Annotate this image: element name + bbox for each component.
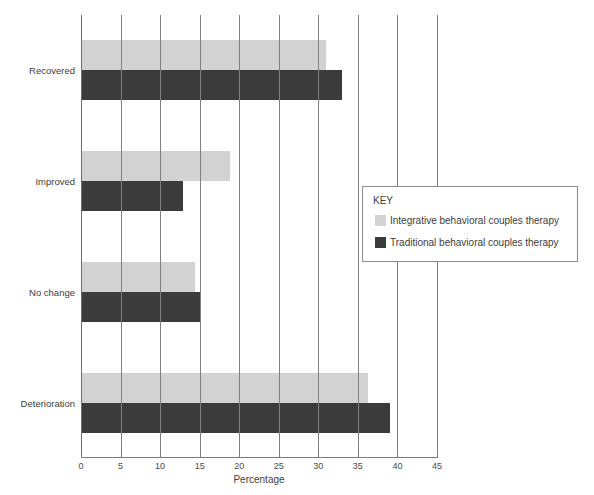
gridline-10	[160, 15, 161, 457]
gridline-35	[358, 15, 359, 457]
x-tick-label-0: 0	[78, 461, 83, 471]
bar-deterioration-traditional	[81, 403, 390, 433]
gridline-30	[318, 15, 319, 457]
legend-entry-integrative: Integrative behavioral couples therapy	[375, 215, 559, 226]
bar-recovered-integrative	[81, 40, 326, 70]
gridline-15	[200, 15, 201, 457]
x-tick-25	[279, 452, 280, 458]
x-tick-20	[239, 452, 240, 458]
x-tick-label-25: 25	[274, 461, 284, 471]
bar-improved-traditional	[81, 181, 183, 211]
legend-entry-traditional: Traditional behavioral couples therapy	[375, 237, 559, 248]
category-label-deterioration: Deterioration	[3, 398, 75, 409]
category-label-no-change: No change	[3, 287, 75, 298]
legend-swatch-dark	[375, 237, 386, 248]
x-tick-label-45: 45	[432, 461, 442, 471]
legend-box: KEY Integrative behavioral couples thera…	[362, 186, 578, 262]
gridline-0	[81, 15, 82, 457]
x-tick-10	[160, 452, 161, 458]
x-tick-label-10: 10	[155, 461, 165, 471]
x-tick-0	[81, 452, 82, 458]
x-tick-45	[437, 452, 438, 458]
gridline-20	[239, 15, 240, 457]
gridline-25	[279, 15, 280, 457]
x-tick-label-30: 30	[313, 461, 323, 471]
x-tick-label-5: 5	[118, 461, 123, 471]
x-tick-15	[200, 452, 201, 458]
x-tick-40	[397, 452, 398, 458]
legend-label-integrative: Integrative behavioral couples therapy	[390, 215, 559, 226]
bar-improved-integrative	[81, 151, 230, 181]
x-tick-label-20: 20	[234, 461, 244, 471]
legend-title: KEY	[373, 195, 393, 206]
gridline-5	[121, 15, 122, 457]
bar-no-change-integrative	[81, 262, 195, 292]
x-tick-label-40: 40	[392, 461, 402, 471]
x-tick-5	[121, 452, 122, 458]
y-axis-category-labels: Recovered Improved No change Deteriorati…	[0, 0, 75, 495]
x-tick-35	[358, 452, 359, 458]
x-tick-label-35: 35	[353, 461, 363, 471]
bar-deterioration-integrative	[81, 373, 368, 403]
x-tick-30	[318, 452, 319, 458]
x-axis-title: Percentage	[0, 474, 518, 485]
chart-screenshot: Recovered Improved No change Deteriorati…	[0, 0, 594, 495]
category-label-improved: Improved	[3, 176, 75, 187]
x-axis-line	[81, 457, 437, 458]
legend-label-traditional: Traditional behavioral couples therapy	[390, 237, 559, 248]
legend-swatch-light	[375, 215, 386, 226]
category-label-recovered: Recovered	[3, 65, 75, 76]
x-tick-label-15: 15	[195, 461, 205, 471]
bar-no-change-traditional	[81, 292, 200, 322]
